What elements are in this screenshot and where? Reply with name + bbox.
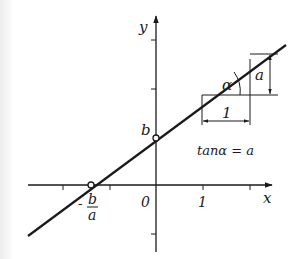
root-label-denominator: a — [88, 207, 96, 223]
y-axis — [151, 16, 156, 252]
root-label-numerator: b — [88, 191, 97, 207]
x-axis-label: x — [263, 189, 272, 207]
y-intercept-point — [153, 135, 159, 141]
angle-label-alpha: α — [222, 76, 232, 94]
rise-label-a: a — [255, 66, 264, 84]
formula-text: tanα = a — [197, 143, 254, 158]
intercept-label-b: b — [141, 121, 151, 139]
slope-triangle — [202, 54, 278, 125]
x-tick-label-1: 1 — [198, 194, 207, 210]
root-label-sign: - — [78, 196, 82, 211]
run-label-1: 1 — [222, 104, 232, 122]
linear-function-diagram: y x 0 1 b - b a α a 1 tanα = a — [0, 0, 293, 259]
x-intercept-point — [88, 182, 94, 188]
origin-label: 0 — [141, 194, 150, 210]
x-axis — [28, 185, 272, 190]
y-axis-label: y — [138, 18, 148, 36]
